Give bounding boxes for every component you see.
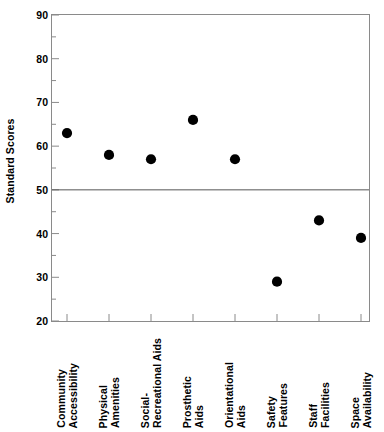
x-tick-label-line: Social- <box>139 393 151 428</box>
x-tick-label-line: Aids <box>235 405 247 428</box>
data-point-marker[interactable] <box>146 154 156 164</box>
data-point-marker[interactable] <box>104 150 114 160</box>
x-tick-label: Social-Recreational Aids <box>131 324 171 428</box>
data-point-marker[interactable] <box>230 154 240 164</box>
x-tick-label-line: Features <box>277 383 289 428</box>
y-tick-label: 80 <box>4 53 48 64</box>
x-tick-label: PhysicalAmenities <box>89 324 129 428</box>
x-tick-label-line: Facilities <box>319 382 331 428</box>
y-tick-label: 70 <box>4 97 48 108</box>
x-tick-label: StaffFacilities <box>299 324 339 428</box>
x-tick-label: CommunityAccessibility <box>47 324 87 428</box>
x-tick-label-line: Staff <box>307 404 319 428</box>
x-tick-label-line: Availability <box>361 372 373 428</box>
x-tick-label-line: Recreational Aids <box>151 338 163 428</box>
x-tick-label-line: Accessibility <box>67 363 79 429</box>
x-tick-label-line: Amenities <box>109 377 121 428</box>
data-point-marker[interactable] <box>314 215 324 225</box>
y-tick-label: 40 <box>4 228 48 239</box>
x-axis-tick-labels: CommunityAccessibilityPhysicalAmenitiesS… <box>0 322 384 432</box>
data-point-marker[interactable] <box>188 115 198 125</box>
y-tick-label: 90 <box>4 10 48 21</box>
data-point-marker[interactable] <box>356 233 366 243</box>
x-tick-label: SafetyFeatures <box>257 324 297 428</box>
standard-scores-line-chart: Standard Scores 2030405060708090 Communi… <box>0 0 384 432</box>
data-series-line <box>67 120 361 282</box>
x-tick-label: SpaceAvailability <box>341 324 381 428</box>
y-tick-label: 60 <box>4 141 48 152</box>
data-point-marker[interactable] <box>272 277 282 287</box>
y-tick-label: 30 <box>4 272 48 283</box>
plot-area <box>51 14 370 322</box>
x-tick-label-line: Aids <box>193 405 205 428</box>
data-point-marker[interactable] <box>62 128 72 138</box>
x-tick-label: OrientationalAids <box>215 324 255 428</box>
x-tick-label: ProstheticAids <box>173 324 213 428</box>
x-tick-label-line: Community <box>55 369 67 428</box>
x-tick-label-line: Orientational <box>223 362 235 428</box>
x-tick-label-line: Prosthetic <box>181 376 193 428</box>
plot-svg <box>52 15 369 321</box>
x-tick-label-line: Safety <box>265 396 277 428</box>
x-tick-label-line: Physical <box>97 385 109 428</box>
y-tick-label: 50 <box>4 185 48 196</box>
x-tick-label-line: Space <box>349 397 361 428</box>
